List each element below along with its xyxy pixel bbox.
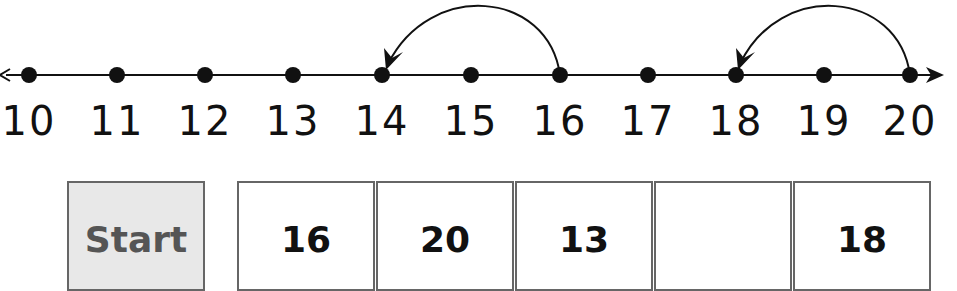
- tick-label: 13: [266, 98, 321, 144]
- tick-label: 14: [355, 98, 410, 144]
- box-label: 18: [795, 219, 929, 260]
- tick-label: 18: [709, 98, 764, 144]
- jump-arrowhead-icon: [384, 48, 403, 70]
- tick-label: 12: [178, 98, 233, 144]
- box-label: 13: [517, 219, 651, 260]
- tick-label: 19: [797, 98, 852, 144]
- tick-label: 11: [90, 98, 145, 144]
- tick-label: 10: [2, 98, 57, 144]
- tick-label: 20: [883, 98, 938, 144]
- tick-dot: [21, 67, 37, 83]
- tick-dot: [197, 67, 213, 83]
- tick-dot: [109, 67, 125, 83]
- tick-dot: [728, 67, 744, 83]
- jump-arc-20-to-18: [740, 6, 910, 75]
- box-label: 20: [378, 219, 512, 260]
- box-label: Start: [69, 219, 203, 260]
- tick-dot: [463, 67, 479, 83]
- empty-answer-box[interactable]: [654, 181, 792, 291]
- tick-dot: [816, 67, 832, 83]
- sequence-box: 18: [793, 181, 931, 291]
- sequence-box: 16: [237, 181, 375, 291]
- tick-label: 16: [533, 98, 588, 144]
- start-box: Start: [67, 181, 205, 291]
- tick-label: 17: [621, 98, 676, 144]
- jump-arrowhead-icon: [736, 48, 755, 70]
- number-line: [0, 0, 957, 100]
- box-label: 16: [239, 219, 373, 260]
- tick-label: 15: [444, 98, 499, 144]
- jump-arc-16-to-14: [388, 6, 560, 75]
- tick-dot: [285, 67, 301, 83]
- sequence-box: 13: [515, 181, 653, 291]
- tick-dot: [374, 67, 390, 83]
- tick-dot: [640, 67, 656, 83]
- sequence-box: 20: [376, 181, 514, 291]
